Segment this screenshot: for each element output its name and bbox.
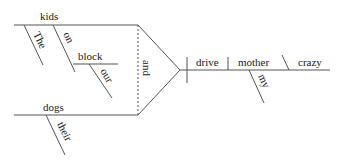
word-crazy: crazy <box>298 56 322 68</box>
word-and: and <box>141 60 153 76</box>
sentence-diagram: kids The on block our dogs their and dri… <box>0 0 340 166</box>
word-on: on <box>61 30 77 46</box>
word-dogs: dogs <box>43 101 64 113</box>
word-kids: kids <box>40 10 58 22</box>
word-block: block <box>78 50 103 62</box>
complement-divider <box>282 55 289 70</box>
word-drive: drive <box>196 56 219 68</box>
word-my: my <box>256 72 273 90</box>
word-the: The <box>31 30 49 51</box>
fork-lower <box>138 70 180 115</box>
word-mother: mother <box>238 56 269 68</box>
